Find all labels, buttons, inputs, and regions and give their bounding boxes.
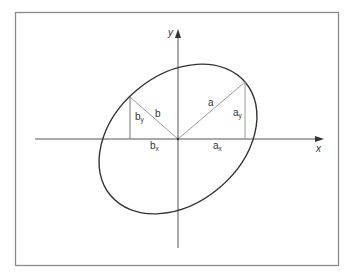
component-ax-label: ax — [213, 140, 223, 152]
x-axis-arrow-icon — [315, 136, 324, 142]
vector-a-label: a — [208, 97, 214, 108]
component-ay-label: ay — [233, 107, 243, 120]
ellipse-diagram: y x a b ay by bx ax — [0, 0, 353, 280]
vector-b-label: b — [155, 108, 161, 119]
y-axis-arrow-icon — [175, 29, 181, 38]
y-axis-label: y — [167, 27, 174, 38]
component-by-label: by — [135, 111, 145, 124]
component-bx-label: bx — [150, 140, 160, 152]
origin-point — [177, 138, 179, 140]
x-axis-label: x — [315, 143, 322, 154]
